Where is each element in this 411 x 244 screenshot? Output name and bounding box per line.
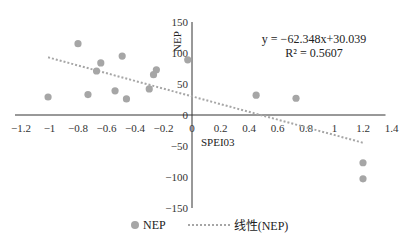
data-point	[93, 67, 100, 74]
legend-item-nep[interactable]: NEP	[131, 218, 166, 233]
x-tick-label: −0.8	[68, 122, 88, 134]
data-point	[44, 93, 51, 100]
data-point	[123, 95, 130, 102]
legend: NEP 线性(NEP)	[131, 216, 310, 234]
legend-label: 线性(NEP)	[234, 216, 289, 234]
legend-label: NEP	[143, 218, 166, 233]
y-tick-label: −150	[165, 202, 188, 214]
dotted-line-icon	[188, 224, 230, 226]
x-tick-label: 1	[332, 122, 338, 134]
x-axis-ticks: −1.2−1−0.8−0.6−0.4−0.200.20.40.60.811.21…	[11, 122, 399, 134]
data-point	[253, 92, 260, 99]
data-point	[97, 59, 104, 66]
data-point	[359, 159, 366, 166]
data-point	[146, 85, 153, 92]
x-tick-label: 0.2	[214, 122, 228, 134]
y-axis-title: NEP	[171, 31, 183, 52]
data-point	[74, 40, 81, 47]
regression-equation: y = −62.348x+30.039	[262, 32, 366, 46]
data-point	[292, 95, 299, 102]
x-tick-label: 0.4	[242, 122, 256, 134]
scatter-chart: −1.2−1−0.8−0.6−0.4−0.200.20.40.60.811.21…	[0, 0, 411, 244]
x-axis-title: SPEI03	[201, 136, 235, 148]
x-tick-label: 0.6	[271, 122, 285, 134]
x-tick-label: −0.2	[154, 122, 174, 134]
data-point	[84, 91, 91, 98]
data-point	[111, 87, 118, 94]
data-point	[359, 175, 366, 182]
y-tick-label: −50	[171, 140, 189, 152]
x-tick-label: −0.6	[97, 122, 117, 134]
x-tick-label: 1.2	[356, 122, 370, 134]
x-tick-label: −0.4	[125, 122, 145, 134]
y-tick-label: 150	[172, 16, 189, 28]
scatter-marker-icon	[131, 221, 139, 229]
y-tick-label: 50	[177, 78, 189, 90]
data-point	[153, 66, 160, 73]
x-tick-label: 1.4	[385, 122, 399, 134]
data-point	[184, 56, 191, 63]
x-tick-label: −1.2	[11, 122, 31, 134]
x-tick-label: −1	[44, 122, 56, 134]
r-squared: R² = 0.5607	[285, 46, 342, 60]
data-points	[44, 40, 366, 182]
y-tick-label: −100	[165, 171, 188, 183]
legend-item-trendline[interactable]: 线性(NEP)	[188, 216, 289, 234]
data-point	[119, 53, 126, 60]
